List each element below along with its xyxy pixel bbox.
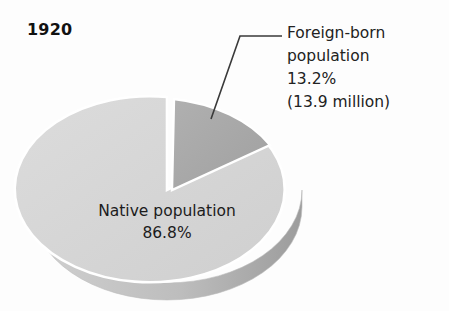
native-population-label: Native population 86.8%: [48, 200, 286, 244]
pie-chart-figure: 1920 Foreign-born popu: [0, 0, 449, 311]
callout-line-4: (13.9 million): [287, 91, 449, 114]
callout-line-2: population: [287, 45, 449, 68]
callout-line-1: Foreign-born: [287, 22, 449, 45]
native-population-name: Native population: [48, 200, 286, 222]
native-population-percent: 86.8%: [48, 222, 286, 244]
foreign-born-callout: Foreign-born population 13.2% (13.9 mill…: [287, 22, 449, 114]
callout-line-3: 13.2%: [287, 68, 449, 91]
callout-leader-line: [211, 36, 282, 119]
